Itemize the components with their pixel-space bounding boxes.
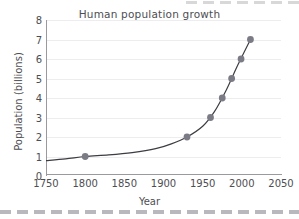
dash-segment [170,210,181,214]
dash-segment [102,210,113,214]
y-tick-label: 6 [36,54,42,65]
data-point [219,95,226,102]
data-series-layer [46,20,281,176]
data-point [82,153,89,160]
y-tick-label: 7 [36,34,42,45]
y-tick-label: 5 [36,73,42,84]
dash-segment [272,210,283,214]
data-point [184,134,191,141]
dash-segment [0,210,11,214]
dash-segment [17,210,28,214]
chart-page: Human population growth Population (bill… [0,0,299,219]
x-tick-label: 1900 [151,178,176,189]
dash-segment [238,210,249,214]
y-axis-label: Population (billions) [13,37,24,167]
data-point [247,36,254,43]
dash-segment [255,210,266,214]
x-tick-label: 1950 [190,178,215,189]
dash-segment [51,210,62,214]
dash-segment [85,210,96,214]
y-tick-label: 3 [36,112,42,123]
data-point [207,114,214,121]
y-tick-label: 1 [36,151,42,162]
x-tick-label: 2000 [229,178,254,189]
population-growth-chart: Human population growth Population (bill… [0,0,299,200]
data-point [228,75,235,82]
bottom-dashed-border [0,208,299,219]
dash-segment [221,210,232,214]
dash-segment [187,210,198,214]
dash-segment [68,210,79,214]
dash-segment [204,210,215,214]
dash-segment [119,210,130,214]
dash-segment [136,210,147,214]
x-tick-label: 1750 [33,178,58,189]
y-tick-label: 4 [36,93,42,104]
y-tick-label: 2 [36,132,42,143]
x-tick-label: 2050 [268,178,293,189]
chart-title: Human population growth [0,8,299,20]
x-axis-label: Year [0,196,299,207]
dash-segment [153,210,164,214]
plot-area: 012345678 1750180018501900195020002050 [46,20,281,175]
dash-segment [289,210,299,214]
data-point [238,56,245,63]
dash-segment [34,210,45,214]
x-tick-label: 1850 [112,178,137,189]
x-tick-label: 1800 [72,178,97,189]
y-tick-label: 8 [36,15,42,26]
